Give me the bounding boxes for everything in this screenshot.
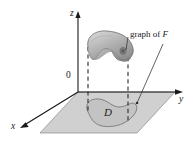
figure-container: z y x 0 D graph of F: [0, 0, 195, 144]
coordinate-system-diagram: [0, 0, 195, 144]
caption-prefix-text: graph of: [130, 29, 163, 39]
x-axis-label: x: [11, 122, 15, 132]
z-axis: [75, 11, 80, 92]
y-axis-label: y: [179, 95, 183, 105]
z-axis-label: z: [70, 9, 74, 19]
origin-label: 0: [66, 71, 71, 81]
caption-symbol-text: F: [163, 29, 169, 39]
graph-of-f-caption: graph of F: [130, 30, 168, 39]
region-d-label: D: [104, 107, 112, 118]
